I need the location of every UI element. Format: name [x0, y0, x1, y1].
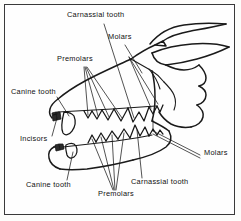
label-carnassial-upper: Carnassial tooth — [67, 11, 124, 18]
label-molars-lower: Molars — [204, 149, 228, 156]
lower-tooth-row — [55, 125, 163, 158]
figure-root: Carnassial tooth Molars Premolars Canine… — [0, 0, 241, 221]
zygomatic-arch — [152, 44, 229, 65]
label-premolars-lower: Premolars — [98, 190, 134, 197]
label-canine-lower: Canine tooth — [26, 181, 71, 188]
lower-incisor-2 — [59, 144, 64, 150]
label-carnassial-lower: Carnassial tooth — [131, 178, 188, 185]
label-premolars-upper: Premolars — [57, 55, 93, 62]
label-canine-upper: Canine tooth — [11, 88, 56, 95]
label-molars-upper: Molars — [108, 33, 132, 40]
label-incisors: Incisors — [20, 135, 47, 142]
occipital-condyle-region — [159, 65, 206, 127]
